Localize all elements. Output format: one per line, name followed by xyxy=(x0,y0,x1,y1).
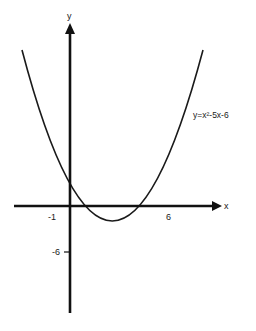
y-axis-label: y xyxy=(67,11,72,21)
x-axis-arrow-icon xyxy=(212,201,222,211)
y-tick-label-neg6: -6 xyxy=(52,247,60,257)
parabola-graph: y x -1 6 -6 y=x²-5x-6 xyxy=(0,0,256,331)
x-axis-label: x xyxy=(224,201,229,211)
x-tick-label-6: 6 xyxy=(166,212,171,222)
parabola-curve xyxy=(22,50,203,221)
equation-label: y=x²-5x-6 xyxy=(193,110,229,120)
x-tick-label-neg1: -1 xyxy=(48,212,56,222)
y-axis-arrow-icon xyxy=(65,23,75,34)
